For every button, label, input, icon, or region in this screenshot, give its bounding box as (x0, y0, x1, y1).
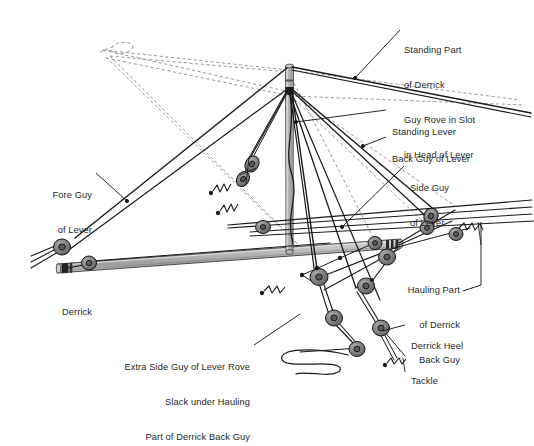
label-line: of Lever (14, 225, 92, 237)
label-line: Derrick Heel (411, 341, 521, 353)
label-line: Hauling Part (390, 285, 460, 297)
label-line: Extra Side Guy of Lever Rove (82, 362, 250, 374)
label-derrick-heel-tackle: Derrick Heel Tackle (411, 318, 521, 411)
block-boom-head-lower (368, 237, 382, 250)
label-line: Derrick (62, 307, 132, 319)
label-line: Standing Part (404, 45, 530, 57)
label-line: Side Guy (410, 183, 520, 195)
block-heel-tackle-e (349, 342, 365, 357)
label-line: Fore Guy (14, 190, 92, 202)
label-side-guy-of-lever: Side Guy of Lever (410, 160, 520, 253)
label-line: of Lever (410, 218, 520, 230)
block-mid-lead (256, 221, 271, 234)
block-heel-tackle-d (373, 320, 390, 336)
label-fore-guy-of-lever: Fore Guy of Lever (14, 167, 92, 260)
label-derrick: Derrick (62, 284, 132, 342)
block-heel-tackle-a (310, 269, 328, 286)
label-extra-side-guy-of-lever: Extra Side Guy of Lever Rove Slack under… (82, 339, 250, 446)
label-line: of Derrick (404, 80, 530, 92)
label-line: Slack under Hauling (82, 397, 250, 409)
label-line: Tackle (411, 376, 521, 388)
block-heel-tackle-c (326, 310, 343, 326)
label-line: Part of Derrick Back Guy (82, 432, 250, 444)
derrick-boom (56, 239, 403, 273)
